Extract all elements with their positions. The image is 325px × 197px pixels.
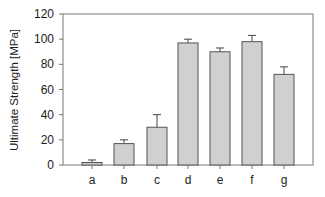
- x-tick-label: c: [154, 173, 160, 187]
- y-tick-label: 40: [41, 108, 55, 122]
- bar-f: [242, 35, 262, 165]
- bar-b: [114, 140, 134, 165]
- y-tick-label: 80: [41, 57, 55, 71]
- bar-e: [210, 48, 230, 165]
- bar-chart: 020406080100120 abcdefg Ultimate Strengt…: [0, 0, 325, 197]
- x-tick-label: e: [217, 173, 224, 187]
- y-axis-ticks: 020406080100120: [34, 7, 63, 172]
- bar-rect: [178, 43, 198, 165]
- bar-rect: [82, 162, 102, 165]
- y-tick-label: 0: [47, 158, 54, 172]
- x-tick-label: d: [185, 173, 192, 187]
- bar-rect: [114, 144, 134, 165]
- y-tick-label: 20: [41, 133, 55, 147]
- x-tick-label: f: [250, 173, 254, 187]
- y-tick-label: 120: [34, 7, 54, 21]
- x-axis-ticks: abcdefg: [89, 165, 288, 187]
- bar-d: [178, 39, 198, 165]
- bar-rect: [242, 42, 262, 165]
- bar-rect: [147, 127, 167, 165]
- x-tick-label: b: [121, 173, 128, 187]
- bar-rect: [210, 52, 230, 165]
- bar-g: [274, 67, 294, 165]
- x-tick-label: a: [89, 173, 96, 187]
- y-tick-label: 60: [41, 83, 55, 97]
- x-tick-label: g: [281, 173, 288, 187]
- bars: [82, 35, 294, 165]
- y-axis-title: Ultimate Strength [MPa]: [8, 29, 20, 151]
- bar-c: [147, 115, 167, 165]
- bar-a: [82, 160, 102, 165]
- y-tick-label: 100: [34, 32, 54, 46]
- bar-rect: [274, 74, 294, 165]
